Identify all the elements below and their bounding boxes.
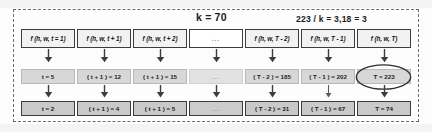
frame-index-row: t = 5 ( t + 1 ) = 12 ( t + 1 ) = 15 ... … — [21, 69, 411, 84]
feature-cell: f (h, w, T - 1) — [301, 29, 355, 48]
reduced-cell: ( T - 2 ) = 31 — [245, 101, 299, 116]
index-cell: ( t + 1 ) = 12 — [77, 69, 131, 84]
reduced-cell-ellipsis: ... — [189, 101, 243, 116]
arrow-down-icon — [189, 49, 243, 69]
reduced-cell: ( t + 1 ) = 5 — [133, 101, 187, 116]
feature-cell: f (h, w, t + 2) — [133, 29, 187, 48]
reduced-cell: ( T - 1 ) = 67 — [301, 101, 355, 116]
index-cell-highlighted: T = 223 — [357, 69, 411, 84]
k-value-label: k = 70 — [196, 11, 227, 23]
feature-map-row: f (h, w, t = 1) f (h, w, t + 1) f (h, w,… — [21, 29, 411, 48]
feature-cell: f (h, w, t = 1) — [21, 29, 75, 48]
division-result-label: 223 / k = 3,18 = 3 — [296, 14, 367, 24]
reduced-cell: T = 74 — [357, 101, 411, 116]
index-cell: ( T - 1 ) = 202 — [301, 69, 355, 84]
reduced-cell: t = 2 — [21, 101, 75, 116]
feature-cell-ellipsis: ... — [189, 29, 243, 48]
index-cell: ( t + 1 ) = 15 — [133, 69, 187, 84]
arrow-down-icon — [21, 49, 75, 69]
arrow-down-icon — [357, 49, 411, 69]
arrow-down-icon — [77, 49, 131, 69]
feature-cell: f (h, w, t + 1) — [77, 29, 131, 48]
arrow-down-icon — [301, 49, 355, 69]
index-cell: ( T - 2 ) = 185 — [245, 69, 299, 84]
feature-cell: f (h, w, T) — [357, 29, 411, 48]
index-cell: t = 5 — [21, 69, 75, 84]
reduced-index-row: t = 2 ( t + 1 ) = 4 ( t + 1 ) = 5 ... ( … — [21, 101, 411, 116]
index-cell-ellipsis: ... — [189, 69, 243, 84]
arrow-down-icon — [245, 49, 299, 69]
feature-cell: f (h, w, T - 2) — [245, 29, 299, 48]
arrow-band-top — [21, 49, 411, 69]
arrow-down-icon — [133, 49, 187, 69]
diagram-canvas: k = 70 223 / k = 3,18 = 3 f (h, w, t = 1… — [0, 0, 432, 132]
reduced-cell: ( t + 1 ) = 4 — [77, 101, 131, 116]
